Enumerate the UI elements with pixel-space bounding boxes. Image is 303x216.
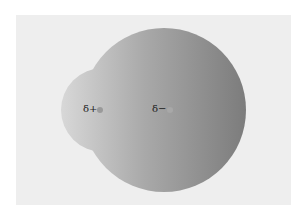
partial-positive-label: δ+ xyxy=(83,104,97,114)
partial-negative-label: δ− xyxy=(152,104,166,114)
positive-atom-dot xyxy=(97,107,103,113)
negative-atom-dot xyxy=(167,107,173,113)
